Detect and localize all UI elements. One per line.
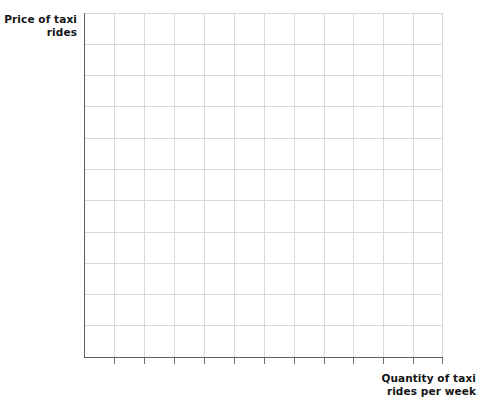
graph-figure: Price of taxi rides bbox=[0, 0, 478, 410]
x-axis-label: Quantity of taxi rides per week bbox=[310, 372, 478, 397]
y-axis-label: Price of taxi rides bbox=[0, 13, 77, 38]
vertical-gridlines bbox=[85, 13, 443, 357]
horizontal-gridlines bbox=[84, 14, 443, 326]
plot-area bbox=[84, 13, 443, 357]
x-axis-ticks bbox=[115, 358, 443, 364]
grid bbox=[84, 13, 478, 385]
